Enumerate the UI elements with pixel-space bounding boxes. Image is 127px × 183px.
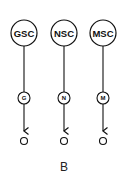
target-node	[100, 138, 107, 145]
target-node	[61, 138, 68, 145]
gsc-label: GSC	[14, 28, 35, 39]
m-label: M	[101, 95, 106, 101]
n-label: N	[62, 95, 66, 101]
chain-gsc: GSC G	[11, 20, 37, 145]
panel-label: B	[60, 160, 68, 174]
g-label: G	[22, 95, 27, 101]
target-node	[21, 138, 28, 145]
lineage-diagram: GSC G NSC N MSC M B	[0, 0, 127, 183]
chain-msc: MSC M	[90, 20, 116, 145]
nsc-label: NSC	[54, 28, 74, 39]
msc-label: MSC	[92, 28, 113, 39]
chain-nsc: NSC N	[51, 20, 77, 145]
